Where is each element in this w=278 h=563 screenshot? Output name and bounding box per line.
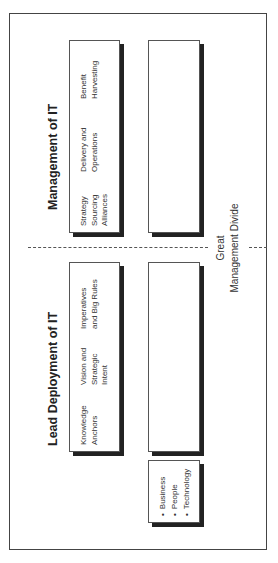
cell-text: Knowledge <box>79 405 90 445</box>
cell-text: Operations <box>90 128 101 172</box>
cell-benefit-harvesting: BenefitHarvesting <box>79 61 100 99</box>
cell-text: Harvesting <box>90 61 101 99</box>
cell-strategy-sourcing-alliances: StrategySourcingAlliances <box>79 194 111 226</box>
management-divide-line-upper <box>28 247 208 248</box>
lead-deployment-box: KnowledgeAnchors Vision andStrategicInte… <box>69 262 120 452</box>
cell-text: Intent <box>100 348 111 385</box>
management-title: Management of IT <box>46 104 60 210</box>
cell-delivery-operations: Delivery andOperations <box>79 128 100 172</box>
legend-item-business: Business <box>157 469 169 516</box>
cell-vision-strategic-intent: Vision andStrategicIntent <box>79 348 111 385</box>
legend-item-technology: Technology <box>181 469 193 516</box>
cell-text: Strategy <box>79 194 90 226</box>
lead-deployment-title: Lead Deployment of IT <box>46 312 60 446</box>
lead-deployment-empty-box <box>148 262 200 452</box>
cell-imperatives-big-rules: Imperativesand Big Rules <box>79 279 100 329</box>
management-divide-line-lower <box>249 247 267 248</box>
legend-item-people: People <box>169 469 181 516</box>
cell-text: Sourcing <box>90 194 101 226</box>
cell-text: Imperatives <box>79 279 90 329</box>
legend-list: Business People Technology <box>157 469 193 516</box>
great-management-divide-label: Great Management Divide <box>214 198 242 298</box>
cell-text: Benefit <box>79 61 90 99</box>
cell-knowledge-anchors: KnowledgeAnchors <box>79 405 100 445</box>
cell-text: Strategic <box>90 348 101 385</box>
cell-text: Vision and <box>79 348 90 385</box>
diagram-rotated: Business People Technology Lead Deployme… <box>9 13 267 550</box>
cell-text: Alliances <box>100 194 111 226</box>
cell-text: Delivery and <box>79 128 90 172</box>
divide-line1: Great <box>214 198 228 298</box>
management-empty-box <box>148 40 200 233</box>
legend-box: Business People Technology <box>148 460 200 523</box>
management-box: StrategySourcingAlliances Delivery andOp… <box>69 40 120 233</box>
divide-line2: Management Divide <box>228 198 242 298</box>
cell-text: Anchors <box>90 405 101 445</box>
cell-text: and Big Rules <box>90 279 101 329</box>
